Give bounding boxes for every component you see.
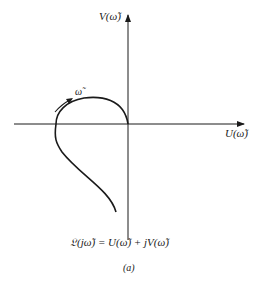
v-axis-label: V(ω̃) (99, 10, 121, 22)
caption: (a) (123, 262, 135, 273)
nyquist-curve (55, 97, 128, 212)
nyquist-diagram (0, 0, 264, 295)
u-axis-label: U(ω̃) (225, 127, 248, 139)
omega-label: ω̃ (75, 86, 82, 97)
equation: 𝔏(jω̃) = U(ω̃) + jV(ω̃) (70, 236, 169, 249)
